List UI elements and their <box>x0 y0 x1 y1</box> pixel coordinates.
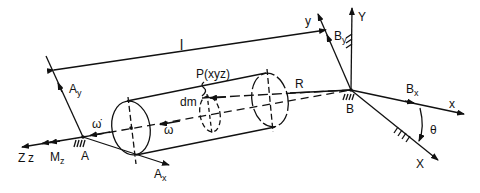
point-p-brace <box>202 82 206 96</box>
y-axis-rotating <box>318 14 351 90</box>
fixed-x-hatch <box>394 127 410 142</box>
label-support-a: A <box>81 150 89 162</box>
length-dimension <box>54 30 326 70</box>
mass-element-disk <box>197 95 223 134</box>
label-axis-y-rot: y <box>305 15 311 27</box>
label-dm: dm <box>180 96 197 108</box>
label-moment: Mz <box>50 151 65 163</box>
label-reaction-bx: Bx <box>406 83 419 95</box>
support-b-hatch <box>343 94 354 100</box>
label-axis-Z: Z <box>18 152 25 164</box>
cylinder-bottom-edge <box>136 127 275 155</box>
x-axis-fixed <box>351 90 438 160</box>
label-length: l <box>180 38 183 52</box>
label-point-p: P(xyz) <box>196 68 230 80</box>
theta-arc <box>419 108 422 141</box>
label-reaction-ay: Ay <box>69 83 82 95</box>
label-theta: θ <box>430 124 437 136</box>
label-axis-Y-fixed: Y <box>358 11 366 23</box>
y-axis-fixed <box>351 8 352 90</box>
label-axis-x-rot: x <box>449 98 455 110</box>
diagram-canvas <box>0 0 480 193</box>
label-axis-X-fixed: X <box>416 158 424 170</box>
label-reaction-by: By <box>334 30 347 42</box>
label-axis-z: z <box>28 152 34 164</box>
label-omega: ω <box>164 124 173 136</box>
support-a-hatch <box>74 140 85 147</box>
label-reaction-ax: Ax <box>154 168 167 180</box>
label-support-b: B <box>346 103 354 115</box>
label-omega-dot: ω̇ <box>92 118 101 130</box>
label-radius: R <box>295 78 304 90</box>
